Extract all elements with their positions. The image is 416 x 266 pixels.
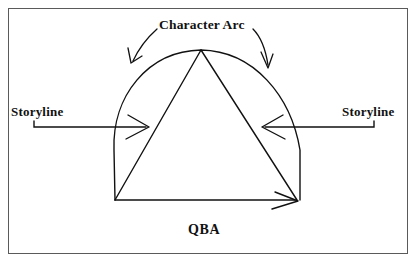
character-arc-callout-left-arrowhead-icon: [128, 48, 142, 63]
diagram-page: Character Arc Storyline Storyline QBA: [0, 0, 416, 266]
character-arc-callout-right: [253, 29, 268, 65]
character-arc-dome-path: [114, 50, 300, 200]
label-storyline-left: Storyline: [11, 104, 63, 120]
triangle-left-side: [115, 50, 201, 200]
triangle-right-side: [201, 50, 297, 200]
label-character-arc: Character Arc: [159, 17, 245, 33]
character-arc-callout-left: [133, 29, 157, 61]
storyline-left-connector: [34, 121, 146, 127]
label-storyline-right: Storyline: [342, 104, 394, 120]
label-qba: QBA: [188, 222, 220, 238]
storyline-right-connector: [265, 121, 374, 127]
